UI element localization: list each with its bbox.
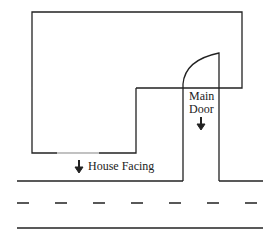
house-facing-label: House Facing <box>88 160 154 173</box>
house-outline <box>32 12 242 153</box>
main-door-label-line2: Door <box>189 103 214 116</box>
floor-plan-diagram: Main Door House Facing <box>0 0 276 236</box>
floor-plan-drawing <box>0 0 276 236</box>
